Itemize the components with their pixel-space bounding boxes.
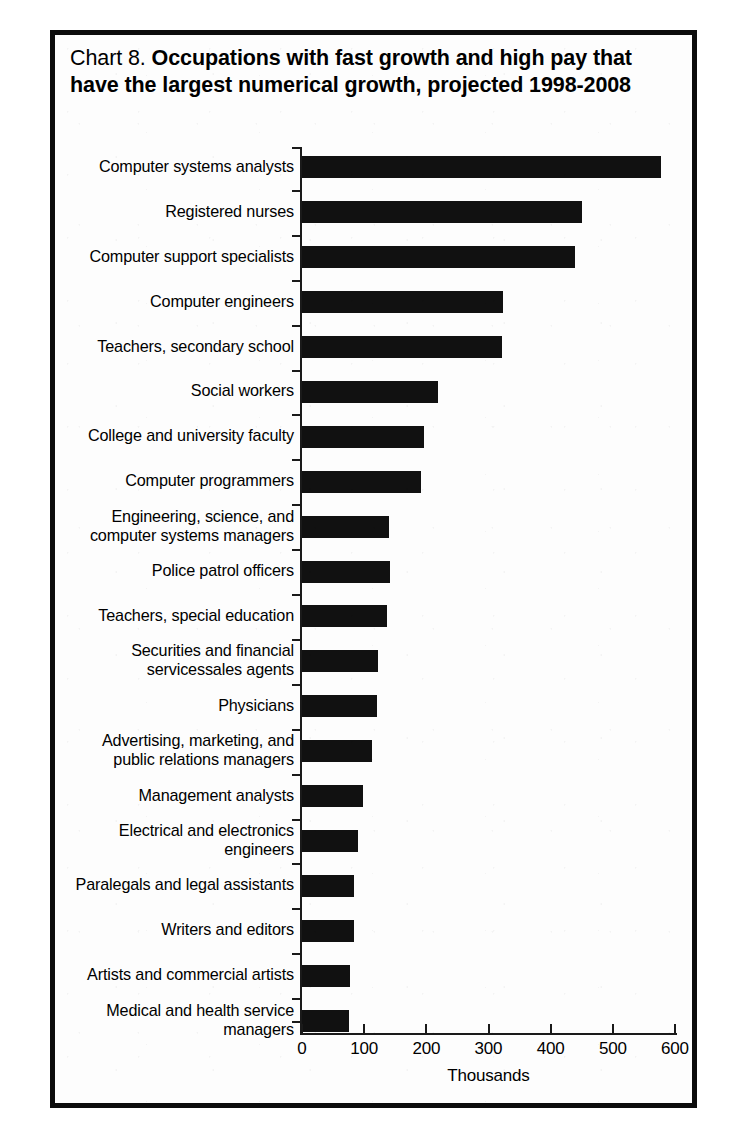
x-axis-tick-label: 500 [583, 1039, 643, 1059]
bar [302, 426, 424, 448]
category-label: Securities and financial servicessales a… [62, 641, 294, 679]
x-axis-line [300, 1033, 677, 1035]
category-label: Advertising, marketing, and public relat… [62, 731, 294, 769]
category-label: Police patrol officers [62, 561, 294, 580]
y-axis-line [300, 147, 302, 1033]
x-axis-tick-label: 400 [521, 1039, 581, 1059]
x-axis-tick-label: 200 [396, 1039, 456, 1059]
y-axis-tick [292, 370, 300, 372]
y-axis-tick [292, 459, 300, 461]
category-label: Teachers, secondary school [62, 337, 294, 356]
x-axis-tick-label: 300 [459, 1039, 519, 1059]
category-label: Paralegals and legal assistants [62, 875, 294, 894]
bar [302, 381, 438, 403]
bar [302, 875, 354, 897]
x-axis-tick-label: 0 [272, 1039, 332, 1059]
bar [302, 201, 582, 223]
category-label: Computer engineers [62, 292, 294, 311]
category-label: Management analysts [62, 786, 294, 805]
x-axis-title: Thousands [242, 1066, 729, 1086]
bar [302, 246, 575, 268]
bar [302, 1010, 349, 1032]
bar [302, 965, 350, 987]
category-label: Electrical and electronics engineers [62, 821, 294, 859]
y-axis-tick [292, 235, 300, 237]
x-axis-tick [301, 1024, 303, 1033]
x-axis-tick [363, 1024, 365, 1033]
category-label: Social workers [62, 381, 294, 400]
y-axis-tick [292, 549, 300, 551]
x-axis-tick-label: 600 [645, 1039, 705, 1059]
category-label: Computer systems analysts [62, 157, 294, 176]
bar [302, 920, 354, 942]
y-axis-tick [292, 863, 300, 865]
bar [302, 605, 387, 627]
y-axis-tick [292, 684, 300, 686]
y-axis-tick [292, 325, 300, 327]
bar-chart-plot-area: Thousands Computer systems analystsRegis… [55, 35, 692, 1103]
y-axis-tick [292, 908, 300, 910]
bar [302, 740, 372, 762]
bar [302, 830, 358, 852]
bar [302, 471, 421, 493]
y-axis-tick [292, 190, 300, 192]
bar [302, 561, 390, 583]
x-axis-tick [488, 1024, 490, 1033]
category-label: College and university faculty [62, 426, 294, 445]
category-label: Writers and editors [62, 920, 294, 939]
x-axis-tick [674, 1024, 676, 1033]
bar [302, 336, 502, 358]
bar [302, 516, 389, 538]
y-axis-tick [292, 280, 300, 282]
category-label: Engineering, science, and computer syste… [62, 507, 294, 545]
bar [302, 156, 661, 178]
chart-figure-inner: Chart 8. Occupations with fast growth an… [55, 35, 692, 1103]
y-axis-tick-bottom [292, 1021, 300, 1023]
x-axis-tick [550, 1024, 552, 1033]
bar [302, 785, 363, 807]
y-axis-tick [292, 774, 300, 776]
category-label: Teachers, special education [62, 606, 294, 625]
y-axis-tick [292, 953, 300, 955]
x-axis-tick-label: 100 [334, 1039, 394, 1059]
category-label: Computer support specialists [62, 247, 294, 266]
x-axis-tick [612, 1024, 614, 1033]
bar [302, 650, 378, 672]
category-label: Artists and commercial artists [62, 965, 294, 984]
bar [302, 695, 377, 717]
category-label: Medical and health service managers [62, 1001, 294, 1039]
y-axis-tick [292, 594, 300, 596]
y-axis-tick [292, 414, 300, 416]
category-label: Registered nurses [62, 202, 294, 221]
category-label: Computer programmers [62, 471, 294, 490]
x-axis-tick [425, 1024, 427, 1033]
y-axis-tick-top [292, 147, 300, 149]
chart-figure-frame: Chart 8. Occupations with fast growth an… [50, 30, 697, 1108]
category-label: Physicians [62, 696, 294, 715]
bar [302, 291, 503, 313]
